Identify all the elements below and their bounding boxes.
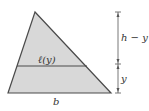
arrowhead-top	[117, 13, 120, 17]
label-y: y	[120, 73, 127, 84]
label-cross-section: ℓ(y)	[38, 54, 56, 65]
arrowhead-mid-up	[117, 59, 120, 63]
arrowhead-mid-down	[117, 65, 120, 69]
label-h-minus-y: h − y	[121, 32, 148, 43]
label-base: b	[53, 96, 59, 107]
arrowhead-bottom	[117, 88, 120, 92]
triangle-diagram: h − y y ℓ(y) b	[0, 0, 149, 111]
triangle	[8, 12, 111, 93]
